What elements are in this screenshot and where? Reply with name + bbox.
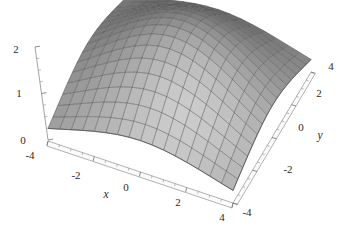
x-tick-label-0: 0 xyxy=(123,181,129,193)
y-tick-label-m2: -2 xyxy=(283,163,292,175)
y-tick-label-0: 0 xyxy=(298,121,304,133)
y-tick-label-2: 2 xyxy=(316,87,322,99)
x-tick-label-m4: -4 xyxy=(25,149,35,161)
y-tick-label-m4: -4 xyxy=(242,206,252,218)
x-tick-label-m2: -2 xyxy=(71,169,80,181)
x-tick-label-4: 4 xyxy=(219,211,225,223)
y-tick-label-4: 4 xyxy=(328,60,334,72)
z-tick-label-0: 0 xyxy=(20,134,26,146)
x-tick-label-2: 2 xyxy=(175,196,181,208)
plot-canvas: 0 1 2 -4 -2 0 2 4 x -4 -2 0 2 4 y xyxy=(0,0,357,236)
surface-plot-figure: 0 1 2 -4 -2 0 2 4 x -4 -2 0 2 4 y xyxy=(0,0,357,236)
y-axis-title: y xyxy=(316,129,323,142)
z-tick-label-2: 2 xyxy=(13,43,19,55)
z-tick-label-1: 1 xyxy=(16,87,22,99)
x-axis-title: x xyxy=(102,188,109,200)
